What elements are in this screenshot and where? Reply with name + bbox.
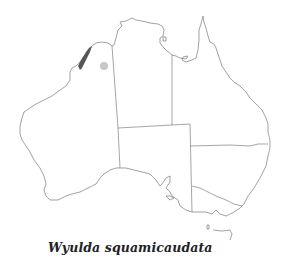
distribution-range — [78, 46, 92, 70]
record-point — [100, 62, 108, 70]
border-nt-sa — [118, 125, 172, 128]
kangaroo-island — [207, 225, 209, 229]
border-nt-qld — [172, 55, 190, 125]
border-nsw-vic — [192, 186, 242, 206]
border-wa — [112, 46, 120, 168]
australia-distribution-map — [0, 0, 288, 240]
border-qld-nsw — [190, 144, 268, 146]
species-caption: Wyulda squamicaudata — [48, 240, 213, 255]
island-coastline — [163, 37, 166, 41]
border-sa-east — [190, 124, 192, 212]
tasmania-coastline — [213, 230, 232, 240]
mainland-coastline — [20, 16, 270, 216]
